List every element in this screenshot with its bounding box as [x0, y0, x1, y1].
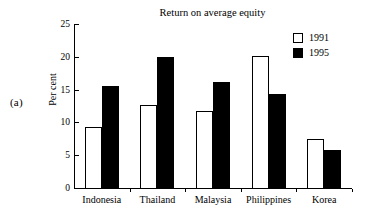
- legend: 19911995: [293, 31, 329, 61]
- y-axis-tick: [75, 90, 79, 91]
- bar-indonesia-1995: [102, 86, 119, 189]
- panel-label: (a): [10, 96, 23, 108]
- x-axis-tick: [185, 189, 186, 192]
- chart-title: Return on average equity: [70, 6, 355, 19]
- bar-philippines-1991: [252, 56, 269, 189]
- bar-korea-1991: [307, 139, 324, 189]
- figure: (a) Return on average equity Per cent 05…: [0, 0, 372, 219]
- y-axis-tick-label: 25: [50, 19, 70, 29]
- y-axis-tick-label: 20: [50, 52, 70, 62]
- y-axis-tick: [75, 24, 79, 25]
- open-square-icon: [293, 33, 303, 43]
- bar-philippines-1995: [269, 94, 286, 189]
- y-axis-tick-label: 15: [50, 85, 70, 95]
- x-axis-tick: [352, 189, 353, 192]
- legend-item-1995: 1995: [293, 46, 329, 59]
- bar-thailand-1995: [157, 57, 174, 189]
- y-axis-tick: [75, 122, 79, 123]
- y-axis-tick-label: 5: [50, 150, 70, 160]
- legend-item-1991: 1991: [293, 31, 329, 44]
- y-axis-line: [74, 24, 75, 189]
- x-axis-tick: [130, 189, 131, 192]
- x-axis-label-korea: Korea: [284, 194, 364, 206]
- y-axis-tick-label: 0: [50, 183, 70, 193]
- y-axis-tick: [75, 155, 79, 156]
- bar-malaysia-1991: [196, 111, 213, 189]
- y-axis-tick: [75, 188, 79, 189]
- legend-label: 1995: [309, 47, 329, 58]
- y-axis-tick: [75, 57, 79, 58]
- x-axis-tick: [241, 189, 242, 192]
- bar-indonesia-1991: [85, 127, 102, 189]
- legend-label: 1991: [309, 32, 329, 43]
- bar-thailand-1991: [140, 105, 157, 189]
- y-axis-tick-label: 10: [50, 117, 70, 127]
- filled-square-icon: [293, 48, 303, 58]
- bar-malaysia-1995: [213, 82, 230, 189]
- x-axis-tick: [296, 189, 297, 192]
- bar-korea-1995: [324, 150, 341, 189]
